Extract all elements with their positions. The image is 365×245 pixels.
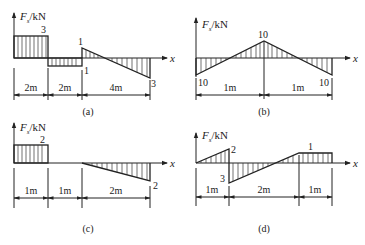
panel-caption: (c)	[82, 223, 93, 235]
segment-length: 2m	[258, 184, 271, 195]
panel-b: Fs/kN x 10 10 10 1m 1m	[196, 18, 358, 118]
segment-length: 1m	[309, 184, 322, 195]
shear-linear-segment	[82, 163, 150, 181]
panel-caption: (b)	[258, 106, 270, 118]
panel-a: Fs/kN x 3 1 1	[14, 10, 175, 118]
y-axis-label: Fs/kN	[201, 129, 228, 144]
segment-length: 2m	[25, 82, 38, 93]
value-label: 1	[78, 36, 83, 47]
segment-length: 1m	[292, 82, 305, 93]
panel-d: Fs/kN x 2 3 1 1	[196, 129, 358, 235]
segment-length: 4m	[110, 82, 123, 93]
value-label: 3	[220, 173, 225, 184]
value-label: 1	[308, 141, 313, 152]
x-axis-label: x	[352, 157, 358, 169]
shear-block-positive	[14, 36, 48, 58]
segment-length: 1m	[206, 184, 219, 195]
shear-piecewise	[196, 149, 332, 183]
value-label: 10	[319, 77, 329, 88]
y-axis-label: Fs/kN	[19, 10, 46, 25]
segment-length: 2m	[59, 82, 72, 93]
panel-caption: (d)	[258, 223, 270, 235]
shear-block-positive	[14, 145, 48, 163]
panel-c: Fs/kN x 2 2 1m	[14, 121, 175, 235]
x-axis-label: x	[169, 157, 175, 169]
shear-force-diagrams: Fs/kN x 3 1 1	[0, 0, 365, 245]
shear-block-negative	[48, 58, 82, 66]
value-label: 3	[151, 78, 156, 89]
shear-linear-segment	[82, 48, 150, 78]
value-label: 2	[231, 144, 236, 155]
segment-length: 1m	[25, 185, 38, 196]
panel-caption: (a)	[82, 106, 93, 118]
value-label: 1	[84, 65, 89, 76]
value-label: 10	[258, 29, 268, 40]
segment-length: 1m	[224, 82, 237, 93]
x-axis-label: x	[352, 52, 358, 64]
value-label: 2	[153, 180, 158, 191]
y-axis-label: Fs/kN	[201, 18, 228, 33]
segment-length: 2m	[110, 185, 123, 196]
value-label: 2	[40, 134, 45, 145]
x-axis-label: x	[169, 52, 175, 64]
value-label: 3	[41, 24, 46, 35]
value-label: 10	[198, 77, 208, 88]
segment-length: 1m	[59, 185, 72, 196]
